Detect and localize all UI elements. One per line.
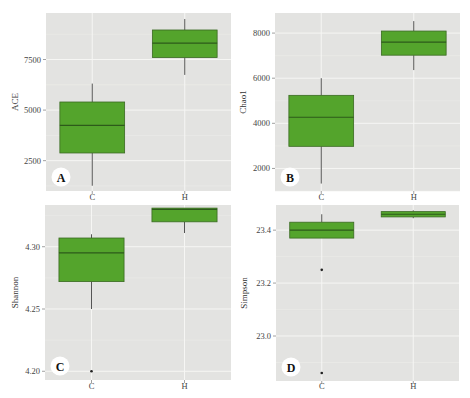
y-axis-title: Simpson <box>239 277 249 309</box>
outlier-point <box>320 372 323 375</box>
box-iqr <box>59 238 124 282</box>
y-tick-label: 4000 <box>253 118 270 128</box>
panel-label: C <box>56 360 65 374</box>
y-tick-label: 6000 <box>253 73 270 83</box>
panel-label: B <box>286 171 294 185</box>
y-axis-title: Chao1 <box>238 90 248 114</box>
y-tick-label: 2000 <box>253 163 270 173</box>
y-tick-label: 4.20 <box>25 366 40 376</box>
y-tick-label: 2500 <box>24 156 41 166</box>
y-tick-label: 8000 <box>253 28 270 38</box>
x-tick-label-c: C <box>318 192 324 202</box>
y-axis-title: Shannon <box>10 276 20 308</box>
figure-canvas: 250050007500ACECHA2000400060008000Chao1C… <box>0 0 470 398</box>
box-iqr <box>381 31 446 55</box>
outlier-point <box>320 269 323 272</box>
y-tick-label: 23.2 <box>256 278 271 288</box>
panel-b: 2000400060008000Chao1CHB <box>238 13 460 202</box>
x-tick-label-h: H <box>410 381 416 391</box>
x-tick-label-h: H <box>411 192 417 202</box>
x-tick-label-c: C <box>319 381 325 391</box>
y-tick-label: 4.25 <box>25 304 40 314</box>
x-tick-label-h: H <box>181 381 187 391</box>
y-tick-label: 4.30 <box>25 242 40 252</box>
x-tick-label-c: C <box>89 381 95 391</box>
y-tick-label: 23.4 <box>256 225 272 235</box>
box-iqr <box>152 30 217 58</box>
box-h <box>381 210 445 218</box>
alpha-diversity-figure: 250050007500ACECHA2000400060008000Chao1C… <box>0 0 470 398</box>
x-tick-label-h: H <box>182 192 188 202</box>
y-tick-label: 5000 <box>24 105 41 115</box>
y-tick-label: 23.0 <box>256 331 271 341</box>
outlier-point <box>90 370 93 373</box>
x-tick-label-c: C <box>89 192 95 202</box>
panel-background <box>45 205 231 380</box>
panel-d: 23.023.223.4SimpsonCHD <box>239 205 459 391</box>
y-tick-label: 7500 <box>24 55 41 65</box>
panel-label: D <box>287 361 296 375</box>
box-iqr <box>289 95 354 146</box>
y-axis-title: ACE <box>10 92 20 111</box>
panel-label: A <box>57 171 66 185</box>
box-iqr <box>152 208 217 222</box>
box-iqr <box>60 102 125 153</box>
panel-c: 4.204.254.30ShannonCHC <box>10 205 231 391</box>
panel-a: 250050007500ACECHA <box>10 13 231 202</box>
